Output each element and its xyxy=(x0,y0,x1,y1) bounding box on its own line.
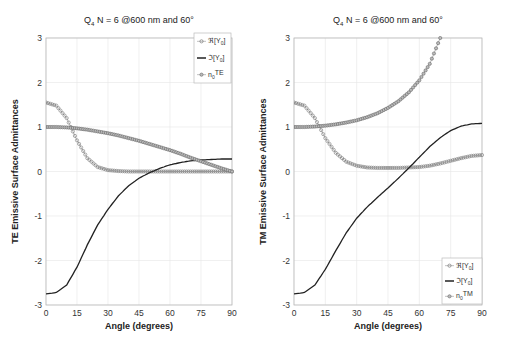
y-tick-label: 0 xyxy=(285,167,290,177)
marker-star xyxy=(437,42,440,45)
x-tick-label: 45 xyxy=(134,308,144,318)
x-axis-label: Angle (degrees) xyxy=(105,321,173,331)
x-tick-label: 75 xyxy=(196,308,206,318)
y-tick-label: 2 xyxy=(37,78,42,88)
chart-title: Q4 N = 6 @600 nm and 60° xyxy=(333,15,443,27)
y-tick-label: -3 xyxy=(34,300,42,310)
x-tick-label: 45 xyxy=(383,308,393,318)
y-tick-label: -1 xyxy=(34,211,42,221)
marker-star xyxy=(439,36,442,39)
y-tick-label: 2 xyxy=(285,78,290,88)
x-tick-label: 60 xyxy=(165,308,175,318)
tm-chart-panel: 0153045607590-3-2-10123Q4 N = 6 @600 nm … xyxy=(258,15,487,331)
marker-star xyxy=(432,52,435,55)
marker-star xyxy=(420,75,423,78)
x-tick-label: 75 xyxy=(446,308,456,318)
x-tick-label: 90 xyxy=(227,308,237,318)
y-tick-label: 0 xyxy=(37,167,42,177)
marker-star xyxy=(422,72,425,75)
x-tick-label: 30 xyxy=(103,308,113,318)
y-tick-label: 3 xyxy=(285,33,290,43)
y-tick-label: -1 xyxy=(282,211,290,221)
y-axis-label: TM Emissive Surface Admittances xyxy=(258,98,268,244)
y-tick-label: 3 xyxy=(37,33,42,43)
y-tick-label: -3 xyxy=(282,300,290,310)
y-tick-label: 1 xyxy=(37,122,42,132)
marker-star xyxy=(426,66,429,69)
y-tick-label: 1 xyxy=(285,122,290,132)
x-tick-label: 30 xyxy=(352,308,362,318)
marker-star xyxy=(430,57,433,60)
x-tick-label: 90 xyxy=(477,308,487,318)
marker-star xyxy=(418,79,421,82)
marker-star xyxy=(428,62,431,65)
x-tick-label: 0 xyxy=(44,308,49,318)
y-tick-label: -2 xyxy=(34,256,42,266)
marker-star xyxy=(230,170,233,173)
te-chart-panel: 0153045607590-3-2-10123Q4 N = 6 @600 nm … xyxy=(10,15,237,331)
x-tick-label: 60 xyxy=(415,308,425,318)
y-axis-label: TE Emissive Surface Admittances xyxy=(10,99,20,244)
legend: ℜ[Y0]ℑ[Y0]n0TE xyxy=(194,33,231,83)
x-tick-label: 0 xyxy=(292,308,297,318)
x-axis-label: Angle (degrees) xyxy=(354,321,422,331)
figure: 0153045607590-3-2-10123Q4 N = 6 @600 nm … xyxy=(0,0,509,346)
x-tick-label: 15 xyxy=(321,308,331,318)
chart-title: Q4 N = 6 @600 nm and 60° xyxy=(84,15,194,27)
marker-star xyxy=(424,69,427,72)
y-tick-label: -2 xyxy=(282,256,290,266)
legend: ℜ[Y0]ℑ[Y0]n0TM xyxy=(442,258,482,304)
x-tick-label: 15 xyxy=(72,308,82,318)
marker-star xyxy=(434,47,437,50)
